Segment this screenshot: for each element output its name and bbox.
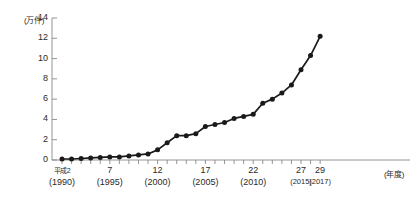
x-axis-tick-label-year: (2017) [298, 177, 342, 186]
x-axis-tick-label-era: 平成2 [40, 165, 84, 175]
data-point-marker [60, 156, 65, 161]
y-axis-tick-label: 12 [20, 32, 48, 42]
data-point-marker [136, 152, 141, 157]
data-point-marker [107, 154, 112, 159]
data-point-marker [193, 131, 198, 136]
x-axis-tick-label-year: (2005) [183, 177, 227, 187]
line-chart: (万件) (年度) 02468101214平成2(1990)7(1995)12(… [0, 0, 417, 200]
data-point-marker [251, 112, 256, 117]
data-point-marker [184, 133, 189, 138]
data-point-marker [126, 153, 131, 158]
y-axis-tick-label: 4 [20, 113, 48, 123]
data-point-marker [232, 116, 237, 121]
data-point-marker [279, 91, 284, 96]
x-axis-tick-label-era: 29 [298, 165, 342, 175]
data-point-marker [79, 156, 84, 161]
x-axis-tick-label-year: (2010) [231, 177, 275, 187]
data-point-marker [270, 97, 275, 102]
data-point-marker [212, 122, 217, 127]
data-point-marker [155, 147, 160, 152]
y-axis-tick-label: 6 [20, 93, 48, 103]
data-point-marker [318, 34, 323, 39]
data-point-marker [289, 82, 294, 87]
data-point-marker [203, 124, 208, 129]
x-axis-tick-label-era: 17 [183, 165, 227, 175]
data-point-marker [69, 156, 74, 161]
data-point-marker [146, 151, 151, 156]
data-point-marker [308, 53, 313, 58]
y-axis-tick-label: 14 [20, 12, 48, 22]
series-line [62, 36, 320, 159]
x-axis-tick-label-year: (1990) [40, 177, 84, 187]
y-axis-tick-label: 2 [20, 134, 48, 144]
data-point-marker [117, 154, 122, 159]
x-axis-tick-label-year: (1995) [88, 177, 132, 187]
x-axis-tick-label-era: 7 [88, 165, 132, 175]
x-axis-tick-label-era: 22 [231, 165, 275, 175]
x-axis-unit-label: (年度) [384, 168, 404, 179]
y-axis-tick-label: 10 [20, 53, 48, 63]
x-axis-tick-label-year: (2000) [136, 177, 180, 187]
data-point-marker [88, 155, 93, 160]
y-axis-tick-label: 8 [20, 73, 48, 83]
y-axis-tick-label: 0 [20, 154, 48, 164]
data-point-marker [174, 133, 179, 138]
x-axis-tick-label-era: 12 [136, 165, 180, 175]
data-point-marker [98, 155, 103, 160]
data-point-marker [299, 67, 304, 72]
data-point-marker [241, 114, 246, 119]
data-point-marker [260, 101, 265, 106]
data-point-marker [222, 120, 227, 125]
data-point-marker [165, 140, 170, 145]
